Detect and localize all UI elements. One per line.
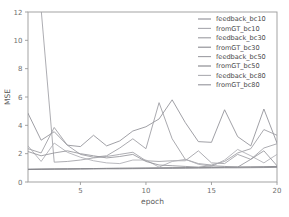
x-tick-label: 10 xyxy=(141,187,150,195)
y-tick-label: 8 xyxy=(18,65,22,73)
x-tick-label: 5 xyxy=(78,187,82,195)
legend-label-feedback_bc10: feedback_bc10 xyxy=(216,15,266,23)
x-tick-label: 20 xyxy=(273,187,282,195)
line-chart: 5101520024681012 epoch MSE feedback_bc10… xyxy=(0,0,289,217)
y-axis-label: MSE xyxy=(3,89,12,105)
x-tick-label: 15 xyxy=(207,187,216,195)
legend-label-feedback_bc80: feedback_bc80 xyxy=(216,72,266,80)
y-tick-label: 10 xyxy=(14,37,23,45)
y-tick-label: 2 xyxy=(18,150,22,158)
y-tick-label: 12 xyxy=(14,9,23,17)
y-tick-label: 4 xyxy=(18,122,23,130)
y-tick-label: 6 xyxy=(18,94,23,102)
legend-label-fromGT_bc30: fromGT_bc30 xyxy=(216,44,260,52)
legend-label-fromGT_bc80: fromGT_bc80 xyxy=(216,81,260,89)
legend-label-fromGT_bc50: fromGT_bc50 xyxy=(216,62,260,70)
legend-label-feedback_bc50: feedback_bc50 xyxy=(216,53,266,61)
chart-figure: 5101520024681012 epoch MSE feedback_bc10… xyxy=(0,0,289,217)
legend-label-feedback_bc30: feedback_bc30 xyxy=(216,34,266,42)
x-axis-label: epoch xyxy=(141,197,164,206)
legend-label-fromGT_bc10: fromGT_bc10 xyxy=(216,25,260,33)
y-tick-label: 0 xyxy=(18,179,22,187)
